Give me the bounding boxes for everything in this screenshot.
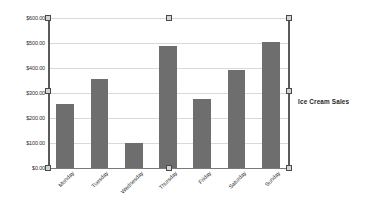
y-axis-tick-label: $100.00 — [0, 140, 45, 146]
legend-entry-ice-cream-sales: Ice Cream Sales — [298, 98, 349, 105]
chart-object[interactable]: $0.00$100.00$200.00$300.00$400.00$500.00… — [0, 0, 389, 214]
x-axis-tick-label: Thursday — [158, 170, 178, 190]
y-axis-tick-label: $300.00 — [0, 90, 45, 96]
selection-handle-bottom-right[interactable] — [286, 165, 292, 171]
x-axis-tick-label: Wednesday — [119, 170, 144, 195]
selection-handle-bottom-center[interactable] — [166, 165, 172, 171]
bar-tuesday[interactable] — [91, 79, 109, 168]
selection-handle-middle-right[interactable] — [286, 88, 292, 94]
y-axis-tick-labels: $0.00$100.00$200.00$300.00$400.00$500.00… — [0, 18, 45, 168]
bar-saturday[interactable] — [228, 70, 246, 168]
y-axis-tick-label: $400.00 — [0, 65, 45, 71]
selection-handle-top-right[interactable] — [286, 15, 292, 21]
x-axis-tick-label: Sunday — [264, 170, 281, 187]
selection-handle-top-left[interactable] — [45, 15, 51, 21]
selection-handle-bottom-left[interactable] — [45, 165, 51, 171]
chart-legend[interactable]: Ice Cream Sales — [298, 90, 349, 108]
bar-monday[interactable] — [56, 104, 74, 168]
bar-thursday[interactable] — [159, 46, 177, 169]
selection-handle-middle-left[interactable] — [45, 88, 51, 94]
x-axis-tick-label: Monday — [57, 170, 75, 188]
y-axis-tick-label: $0.00 — [0, 165, 45, 171]
y-axis-tick-label: $200.00 — [0, 115, 45, 121]
bar-series-ice-cream-sales[interactable] — [48, 18, 288, 168]
y-axis-tick-label: $500.00 — [0, 40, 45, 46]
bar-friday[interactable] — [193, 99, 211, 168]
selection-handle-top-center[interactable] — [166, 15, 172, 21]
x-axis-tick-label: Friday — [197, 170, 212, 185]
y-axis-tick-label: $600.00 — [0, 15, 45, 21]
bar-sunday[interactable] — [262, 42, 280, 168]
x-axis-tick-label: Saturday — [227, 170, 247, 190]
x-axis-tick-labels: MondayTuesdayWednesdayThursdayFridaySatu… — [48, 170, 288, 214]
x-axis-tick-label: Tuesday — [91, 170, 110, 189]
bar-wednesday[interactable] — [125, 143, 143, 168]
